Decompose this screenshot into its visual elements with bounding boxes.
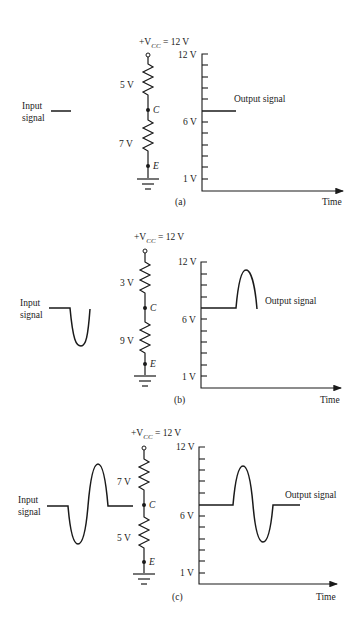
lower-drop-b: 9 V	[120, 336, 134, 346]
node-c-label-c: C	[149, 500, 156, 510]
node-c-dot-c	[142, 503, 146, 507]
axis-bottom-label-b: 1 V	[182, 372, 196, 382]
y-ticks-c	[199, 459, 205, 573]
output-signal-c	[199, 466, 300, 542]
ground-icon-c	[133, 574, 155, 584]
upper-drop-a: 5 V	[120, 80, 134, 90]
vcc-label-b: +VCC = 12 V	[134, 232, 184, 245]
resistor-divider-c	[139, 450, 149, 573]
input-label-c-2: signal	[18, 507, 41, 517]
output-label-a: Output signal	[234, 94, 286, 104]
input-label-a-2: signal	[22, 113, 45, 123]
node-e-dot-b	[143, 362, 147, 366]
axis-mid-label-c: 6 V	[180, 511, 194, 521]
axis-bottom-label-c: 1 V	[180, 568, 194, 578]
axis-top-label-a: 12 V	[178, 50, 197, 60]
axis-x-label-c: Time	[316, 592, 336, 602]
resistor-divider-a	[143, 57, 153, 178]
node-c-label-b: C	[150, 303, 157, 313]
upper-drop-c: 7 V	[117, 477, 131, 487]
output-label-c: Output signal	[285, 490, 337, 500]
axis-x-label-a: Time	[322, 197, 342, 207]
ground-icon-b	[134, 376, 156, 386]
input-label-a-1: Input	[22, 101, 42, 111]
node-e-label-b: E	[149, 359, 156, 369]
node-e-label-c: E	[148, 557, 155, 567]
output-signal-b	[201, 270, 257, 309]
vcc-terminal-a	[146, 53, 150, 57]
axis-bottom-label-a: 1 V	[183, 174, 197, 184]
axis-x-label-b: Time	[320, 395, 340, 405]
vcc-terminal-b	[143, 249, 147, 253]
input-label-b-2: signal	[20, 310, 43, 320]
lower-drop-c: 5 V	[117, 533, 131, 543]
node-c-dot-a	[146, 108, 150, 112]
input-label-c-1: Input	[18, 495, 38, 505]
node-e-dot-c	[142, 560, 146, 564]
input-label-b-1: Input	[20, 298, 40, 308]
panel-a: Input signal +VCC = 12 V C E 5 V 7 V 12 …	[22, 37, 343, 208]
input-signal-b	[49, 308, 90, 346]
panel-b: Input signal +VCC = 12 V C E 3 V 9 V 12 …	[20, 232, 341, 406]
node-c-dot-b	[143, 306, 147, 310]
transistor-bias-figure: Input signal +VCC = 12 V C E 5 V 7 V 12 …	[0, 0, 361, 621]
axis-top-label-c: 12 V	[176, 442, 195, 452]
resistor-divider-b	[140, 253, 150, 375]
caption-c: (c)	[172, 592, 183, 603]
y-ticks-b	[201, 274, 207, 376]
lower-drop-a: 7 V	[119, 139, 133, 149]
caption-a: (a)	[175, 197, 186, 208]
output-label-b: Output signal	[265, 296, 317, 306]
vcc-label-a: +VCC = 12 V	[139, 37, 189, 50]
caption-b: (b)	[174, 395, 185, 406]
axis-mid-label-a: 6 V	[183, 117, 197, 127]
node-e-label-a: E	[152, 161, 159, 171]
node-c-label-a: C	[153, 105, 160, 115]
axes-b	[201, 262, 341, 388]
vcc-label-c: +VCC = 12 V	[131, 428, 181, 441]
axes-a	[202, 54, 343, 191]
axis-top-label-b: 12 V	[178, 257, 197, 267]
input-signal-c	[47, 464, 133, 544]
vcc-terminal-c	[142, 446, 146, 450]
ground-icon-a	[137, 179, 159, 189]
y-ticks-a	[202, 65, 208, 179]
axes-c	[199, 447, 337, 584]
upper-drop-b: 3 V	[120, 278, 134, 288]
axis-mid-label-b: 6 V	[182, 315, 196, 325]
panel-c: Input signal +VCC = 12 V C E 7 V 5 V 12 …	[18, 428, 337, 603]
node-e-dot-a	[146, 164, 150, 168]
